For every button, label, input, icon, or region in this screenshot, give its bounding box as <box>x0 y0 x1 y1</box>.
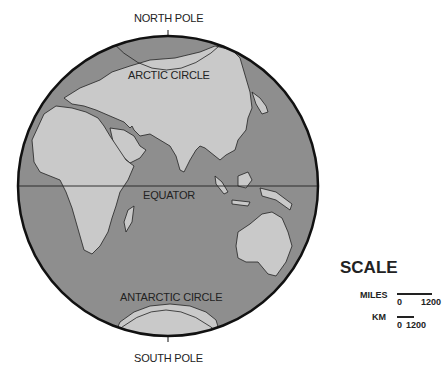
miles-end: 1200 <box>421 297 441 307</box>
km-scale-bar <box>397 316 414 318</box>
km-label: KM <box>372 312 386 322</box>
antarctic-circle-label: ANTARCTIC CIRCLE <box>120 291 222 303</box>
scale-title: SCALE <box>340 258 398 278</box>
miles-scale-bar <box>397 293 432 295</box>
km-start: 0 <box>397 320 402 330</box>
miles-label: MILES <box>360 290 388 300</box>
north-pole-label: NORTH POLE <box>134 12 203 24</box>
south-pole-label: SOUTH POLE <box>134 352 203 364</box>
miles-start: 0 <box>397 297 402 307</box>
equator-label: EQUATOR <box>143 189 195 201</box>
km-end: 1200 <box>406 320 426 330</box>
arctic-circle-label: ARCTIC CIRCLE <box>128 69 210 81</box>
